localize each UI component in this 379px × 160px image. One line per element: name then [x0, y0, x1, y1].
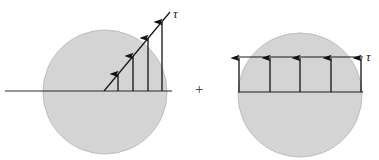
tau-label-right: τ: [366, 50, 371, 63]
tau-label-left: τ: [173, 7, 178, 20]
left-panel-group: [5, 12, 172, 154]
right-disk: [238, 33, 362, 157]
traction-decomposition-figure: τ + τ: [0, 0, 379, 160]
right-panel-group: [238, 33, 363, 157]
figure-canvas: [0, 0, 379, 160]
plus-operator: +: [195, 82, 203, 97]
